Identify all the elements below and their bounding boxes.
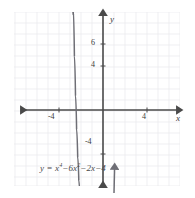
y-tick-label-4: 4 xyxy=(91,60,95,69)
x-tick-label-4: 4 xyxy=(142,112,146,121)
equation-term3: 2x xyxy=(86,163,95,173)
equation-lhs: y xyxy=(40,163,44,173)
y-tick-label-6: 6 xyxy=(91,38,95,47)
equation-equals: = xyxy=(46,163,52,173)
curve-right-down-arrow xyxy=(114,168,115,193)
y-tick-label-neg4: -4 xyxy=(85,137,91,146)
equation-label: y = x4−6x2−2x−4 xyxy=(40,162,106,173)
x-tick-label-neg4: -4 xyxy=(48,112,54,121)
equation-term4: 4 xyxy=(101,163,106,173)
graph-figure: -4 4 6 4 -4 y x y = x4−6x2−2x−4 xyxy=(0,0,195,198)
x-axis-label: x xyxy=(176,113,180,123)
y-axis-label: y xyxy=(110,14,114,24)
